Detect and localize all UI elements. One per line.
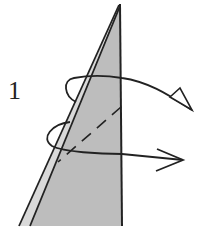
turn-over-arrowhead-icon (170, 88, 192, 110)
origami-diagram: 1 (0, 0, 208, 234)
step-number: 1 (8, 78, 21, 104)
